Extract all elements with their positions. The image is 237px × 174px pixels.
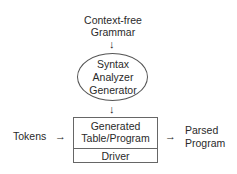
generator-label-line2: Analyzer xyxy=(73,71,153,84)
grammar-label-line2: Grammar xyxy=(73,26,153,38)
driver-label: Driver xyxy=(73,150,158,162)
parsed-program-line1: Parsed xyxy=(185,124,225,137)
generated-table-line1: Generated xyxy=(73,120,158,132)
arrow-down-icon: ↓ xyxy=(109,39,115,50)
tokens-label: Tokens xyxy=(13,130,46,142)
generator-label: Syntax Analyzer Generator xyxy=(73,58,153,97)
parsed-program-label: Parsed Program xyxy=(185,124,225,150)
arrow-right-icon: → xyxy=(55,131,66,142)
generated-table-line2: Table/Program xyxy=(73,132,158,144)
parsed-program-line2: Program xyxy=(185,137,225,150)
arrow-right-icon: → xyxy=(165,131,176,142)
box-divider xyxy=(74,148,157,149)
grammar-label: Context-free Grammar xyxy=(73,14,153,38)
generated-table-label: Generated Table/Program xyxy=(73,120,158,144)
generator-label-line3: Generator xyxy=(73,84,153,97)
arrow-down-icon: ↓ xyxy=(109,104,115,115)
grammar-label-line1: Context-free xyxy=(73,14,153,26)
generator-label-line1: Syntax xyxy=(73,58,153,71)
